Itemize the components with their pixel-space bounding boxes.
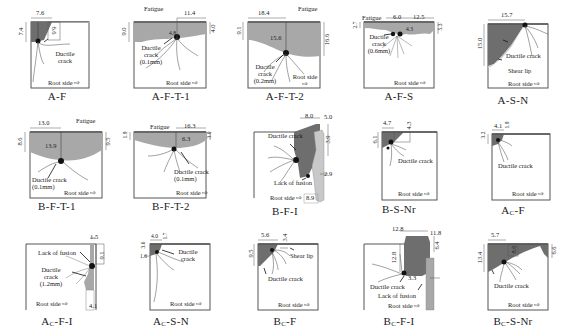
label-ductile-crack: Ductile crack [506,52,541,59]
dim-depth: 13.4 [476,252,483,263]
panel-ac-f: 4.1 3.2 1.9 Ductile crack Root side ⇨ AC… [456,110,570,220]
dim-a: 6.0 [393,13,401,20]
dim-d: 2.9 [324,170,332,177]
dim-side: 16.6 [323,34,330,45]
panel-caption: B-F-T-2 [114,200,228,212]
dim-side: 3.4 [281,233,288,241]
panel-a-f: 7.6 7.4 6.6 Ductile crack Root side ⇨ A-… [0,0,114,110]
root-side-label: Root side ⇨ [508,80,540,87]
panel-caption: A-S-N [456,94,570,106]
panel-caption: AC-F [456,204,570,217]
label-ductile-crack: Ductile crack [176,248,200,262]
dim-e: 3.3 [408,274,416,281]
dim-b: 12.5 [413,13,424,20]
dim-depth: 2.7 [352,22,358,29]
dim-d: 1.7 [162,233,168,240]
label-ductile-crack: Ductile crack (0.6mm) [364,33,394,54]
panel-bc-f-i: 12.8 11.8 12.8 6.4 3.3 Ductile crack Lac… [342,222,456,332]
dim-depth: 8.6 [16,137,23,145]
panel-caption: A-F-S [342,90,456,102]
dim-a: 1.5 [90,233,98,240]
label-ductile-crack: Ductile crack [498,162,533,169]
dim-side: 6.6 [550,246,557,254]
root-side-label: Root side ⇨ [394,79,426,86]
label-fatigue: Fatigue [76,117,96,124]
dim-side: 6.6 [51,26,58,34]
dim-width: 11.4 [184,9,195,16]
panel-b-s-nr: 4.7 6.1 4.3 Ductile crack Root side ⇨ B-… [342,110,456,220]
dim-depth: 3.2 [480,132,486,139]
label-ductile-crack: Ductile crack [398,157,433,164]
dim-center: 13.9 [45,142,56,149]
label-ductile-crack: Ductile crack [370,283,405,290]
label-fatigue: Fatigue [144,5,164,12]
label-fatigue: Fatigue [362,14,382,21]
dim-c: 1.6 [140,253,147,259]
panel-b-f-t-2: Fatigue 16.3 1.9 6.3 3.0 Ductile crack (… [114,110,228,220]
dim-width: 4.7 [383,119,391,126]
dim-side: 9.5 [104,137,111,145]
dim-c: 12.8 [390,252,397,263]
dim-depth: 15.0 [476,38,483,49]
root-side-label: Root side ⇨ [398,190,430,197]
dim-depth: 7.4 [17,27,24,35]
panel-b-f-t-1: 13.0 Fatigue 8.6 13.9 9.5 Ductile crack … [0,110,114,220]
panel-a-f-t-1: Fatigue 11.4 9.0 4.8 4.0 Ductile crack (… [114,0,228,110]
label-fatigue: Fatigue [298,5,318,12]
label-ductile-crack: Ductile crack (1.2mm) [36,266,66,287]
panel-caption: B-F-I [228,205,342,217]
dim-depth: 6.1 [371,135,378,143]
root-side-label: Root side ⇨ [508,301,540,308]
label-ductile-crack: Ductile crack [50,50,80,64]
dim-width: 4.0 [151,233,158,239]
dim-e: 8.9 [306,194,314,201]
panel-caption: B-F-T-1 [0,200,114,212]
label-ductile-crack: Ductile crack (0.1mm) [174,168,214,182]
dim-depth: 9.5 [247,249,254,257]
root-side-label: Root side ⇨ [512,190,544,197]
root-side-label: Root side ⇨ [278,301,310,308]
root-side-label: Root side ⇨ [388,302,420,309]
dim-depth: 3.6 [140,242,146,249]
dim-c: 8.6 [510,245,517,253]
dim-center: 4.3 [406,26,413,32]
fracture-diagram [228,110,342,220]
dim-a: 12.8 [392,225,403,232]
root-side-label: Root side ⇨ [48,79,80,86]
dim-width: 7.6 [36,9,44,16]
label-ductile-crack: Ductile crack [494,282,529,289]
label-fatigue: Fatigue [150,123,170,130]
panel-caption: B-S-Nr [342,203,456,215]
dim-depth: 1.9 [122,132,128,139]
label-ductile-crack: Ductile crack [268,132,303,139]
dim-width: 18.4 [258,9,269,16]
dim-side: 5.3 [437,24,443,31]
panel-ac-f-i: 1.5 9.1 4.1 Lack of fusion Ductile crack… [0,222,114,332]
label-ductile-crack: Ductile crack (0.1mm) [136,44,166,65]
root-side-label: Root side ⇨ [176,189,208,196]
panel-caption: BC-S-Nr [456,315,570,328]
panel-caption: A-F-T-1 [114,90,228,102]
dim-depth: 9.0 [120,27,127,35]
dim-crack: 4.8 [169,30,176,36]
dim-depth: 9.1 [235,26,242,34]
dim-side: 1.9 [504,122,510,129]
panel-b-f-i: 8.0 5.0 3.9 2.9 8.9 Ductile crack Lack o… [228,110,342,220]
dim-side: 4.3 [405,121,412,129]
panel-caption: A-F-T-2 [228,90,342,102]
dim-width: 5.7 [491,231,499,238]
root-side-label: Root side ⇨ [170,300,202,307]
dim-width: 13.0 [38,119,49,126]
root-side-label: Root side ⇨ [64,189,96,196]
root-side-label: Root side ⇨ [292,73,318,87]
dim-width: 15.7 [501,11,512,18]
dim-b: 9.1 [98,251,105,259]
label-lack-of-fusion: Lack of fusion [38,249,76,256]
panel-a-f-t-2: Fatigue 18.4 9.1 15.6 16.6 Ductile crack… [228,0,342,110]
panel-bc-s-nr: 5.7 13.4 8.6 6.6 Ductile crack Root side… [456,222,570,332]
label-ductile-crack: Ductile crack (0.2mm) [250,63,280,84]
root-side-label: Root side ⇨ [36,300,68,307]
panel-bc-f: 5.6 9.5 3.4 Shear lip Ductile crack Root… [228,222,342,332]
label-ductile-crack: Ductile crack (0.1mm) [32,176,72,190]
panel-caption: AC-S-N [114,315,228,328]
